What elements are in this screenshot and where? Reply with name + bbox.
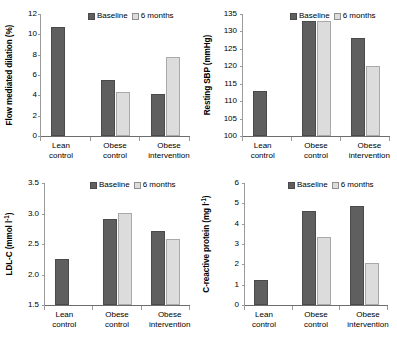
legend-label-baseline: Baseline <box>97 12 128 20</box>
bar-baseline[interactable] <box>55 259 69 305</box>
x-axis-category-labels-flow-mediated-dilation: Lean controlObese controlObese intervent… <box>34 141 196 161</box>
y-tick-label: 8 <box>33 51 37 59</box>
bar-baseline[interactable] <box>151 231 165 305</box>
y-tick-label: 2.5 <box>28 240 39 248</box>
y-axis-title-c-reactive-protein: C-reactive protein (mg l-1) <box>200 183 216 305</box>
y-tick-label: 125 <box>224 45 237 53</box>
y-tick-label: 4 <box>235 220 239 228</box>
bar-baseline[interactable] <box>103 219 117 305</box>
y-tickmark <box>242 224 245 225</box>
y-tick-label: 1.5 <box>28 301 39 309</box>
y-tick-label: 0 <box>33 132 37 140</box>
plot-area-ldl-c <box>44 183 190 306</box>
plot-area-flow-mediated-dilation <box>40 14 190 137</box>
bar-6-months[interactable] <box>166 57 180 136</box>
legend-resting-sbp: Baseline 6 months <box>290 12 376 20</box>
plot-area-resting-sbp <box>242 14 390 137</box>
bar-baseline[interactable] <box>302 21 316 136</box>
bar-6-months[interactable] <box>116 92 130 136</box>
bar-baseline[interactable] <box>253 91 267 136</box>
legend-label-baseline: Baseline <box>99 181 130 189</box>
x-category-label: Obese control <box>88 141 142 161</box>
legend-label-6-months: 6 months <box>341 181 374 189</box>
y-tick-label: 110 <box>224 97 237 105</box>
y-tick-label: 105 <box>224 115 237 123</box>
bar-group <box>293 183 341 305</box>
bar-group-container <box>45 183 190 305</box>
x-category-label: Lean control <box>236 141 289 161</box>
bar-6-months[interactable] <box>317 237 331 305</box>
y-tick-label: 12 <box>28 10 37 18</box>
bar-6-months[interactable] <box>366 66 380 136</box>
legend-item-6-months: 6 months <box>132 12 174 20</box>
y-axis-tick-labels-resting-sbp: 100105110115120125130135 <box>214 14 240 136</box>
y-tick-label: 2 <box>33 112 37 120</box>
y-tickmark <box>242 285 245 286</box>
y-tickmark <box>240 84 243 85</box>
x-category-label: Obese intervention <box>342 310 394 330</box>
bar-6-months[interactable] <box>166 239 180 305</box>
four-panel-bar-chart-figure: Flow mediated dilation (%) 024681012 Lea… <box>0 0 397 337</box>
bar-group <box>341 14 390 136</box>
x-category-label: Lean control <box>34 141 88 161</box>
bar-group-container <box>245 183 388 305</box>
y-tickmark <box>242 203 245 204</box>
bar-baseline[interactable] <box>101 80 115 136</box>
bar-6-months[interactable] <box>118 213 132 305</box>
y-tick-label: 3.5 <box>28 179 39 187</box>
y-tick-label: 5 <box>235 199 239 207</box>
y-tick-label: 130 <box>224 27 237 35</box>
y-tick-label: 0 <box>235 301 239 309</box>
bar-baseline[interactable] <box>151 94 165 136</box>
legend-label-baseline: Baseline <box>299 12 330 20</box>
bar-group <box>245 183 293 305</box>
x-category-label: Obese intervention <box>142 141 196 161</box>
legend-swatch-6-months-icon <box>134 182 141 189</box>
legend-item-6-months: 6 months <box>332 181 374 189</box>
legend-c-reactive-protein: Baseline 6 months <box>288 181 374 189</box>
bar-baseline[interactable] <box>350 206 364 305</box>
y-tickmark <box>38 95 41 96</box>
bar-baseline[interactable] <box>51 27 65 136</box>
y-tick-label: 4 <box>33 91 37 99</box>
bar-6-months[interactable] <box>317 21 331 136</box>
bar-group-container <box>243 14 390 136</box>
bar-baseline[interactable] <box>254 280 268 305</box>
legend-label-6-months: 6 months <box>141 12 174 20</box>
legend-swatch-6-months-icon <box>132 13 139 20</box>
y-tickmark <box>240 119 243 120</box>
legend-swatch-baseline-icon <box>88 13 95 20</box>
bar-6-months[interactable] <box>365 263 379 305</box>
legend-swatch-baseline-icon <box>288 182 295 189</box>
bar-baseline[interactable] <box>351 38 365 136</box>
y-tick-label: 2 <box>235 260 239 268</box>
bar-group <box>340 183 388 305</box>
x-category-label: Lean control <box>238 310 290 330</box>
y-tickmark <box>240 14 243 15</box>
legend-item-baseline: Baseline <box>288 181 328 189</box>
bar-group <box>142 183 190 305</box>
legend-item-baseline: Baseline <box>88 12 128 20</box>
y-tickmark <box>38 55 41 56</box>
y-tickmark <box>240 101 243 102</box>
y-tickmark <box>240 49 243 50</box>
y-tick-label: 135 <box>224 10 237 18</box>
bar-group <box>140 14 190 136</box>
x-axis-category-labels-c-reactive-protein: Lean controlObese controlObese intervent… <box>238 310 394 330</box>
x-axis-category-labels-resting-sbp: Lean controlObese controlObese intervent… <box>236 141 396 161</box>
y-axis-tick-labels-flow-mediated-dilation: 024681012 <box>14 14 40 136</box>
y-tickmark <box>240 66 243 67</box>
y-tickmark <box>240 31 243 32</box>
panel-resting-sbp: Resting SBP (mmHg) 100105110115120125130… <box>198 0 397 169</box>
legend-item-6-months: 6 months <box>334 12 376 20</box>
panel-ldl-c: LDL-C (mmol l-1) 1.52.02.53.03.5 Lean co… <box>0 169 198 337</box>
y-tick-label: 3 <box>235 240 239 248</box>
legend-item-baseline: Baseline <box>90 181 130 189</box>
y-tick-label: 10 <box>28 30 37 38</box>
legend-label-baseline: Baseline <box>297 181 328 189</box>
bar-baseline[interactable] <box>302 211 316 305</box>
y-tick-label: 120 <box>224 62 237 70</box>
y-axis-tick-labels-ldl-c: 1.52.02.53.03.5 <box>16 183 42 305</box>
y-tickmark <box>38 34 41 35</box>
y-tick-label: 115 <box>224 80 237 88</box>
